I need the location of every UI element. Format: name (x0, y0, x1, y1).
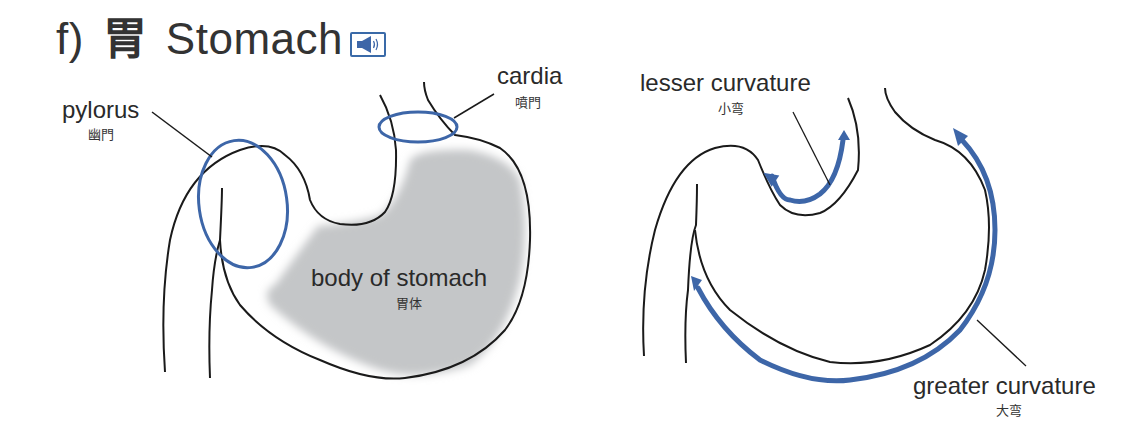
greater-leader-line (977, 320, 1026, 366)
lesser-curvature-label-jp: 小弯 (718, 102, 744, 116)
greater-curvature-label: greater curvature (913, 373, 1096, 399)
pylorus-leader-line (152, 112, 212, 157)
pylorus-label: pylorus (62, 97, 139, 123)
greater-curvature-label-jp: 大弯 (996, 404, 1022, 418)
pylorus-marker (191, 134, 296, 273)
lesser-leader-line (793, 112, 830, 185)
duodenum-inner-outline (209, 188, 222, 378)
cardia-marker (379, 112, 457, 142)
cardia-label: cardia (497, 63, 562, 89)
stomach-diagram (0, 0, 1144, 426)
pylorus-label-jp: 幽門 (88, 128, 114, 142)
right-duodenum-outer (643, 98, 859, 356)
cardia-leader-line (454, 94, 494, 118)
lesser-curvature-label: lesser curvature (640, 70, 811, 96)
right-stomach-greater-outline (695, 88, 989, 363)
lesser-arrowhead-right (838, 130, 850, 140)
right-stomach-figure (643, 88, 1026, 381)
left-stomach-figure (152, 82, 530, 379)
cardia-label-jp: 噴門 (515, 96, 541, 110)
right-duodenum-inner (685, 184, 697, 363)
lesser-curvature-arrow (772, 140, 843, 202)
greater-curvature-arrow (698, 140, 995, 381)
body-of-stomach-label-jp: 胃体 (396, 297, 422, 311)
body-of-stomach-label: body of stomach (311, 265, 487, 291)
